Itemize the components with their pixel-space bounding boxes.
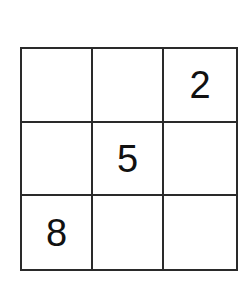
grid-cell-r2-c1[interactable] [22,123,93,196]
cell-value: 2 [189,66,210,104]
grid-cell-r3-c1[interactable]: 8 [22,196,93,269]
cell-value: 5 [117,140,138,178]
grid-cell-r1-c1[interactable] [22,49,93,123]
number-grid: 2 5 8 [20,47,238,271]
grid-cell-r2-c2[interactable]: 5 [93,123,164,196]
cell-value: 8 [46,214,67,252]
grid-cell-r2-c3[interactable] [164,123,236,196]
grid-cell-r3-c3[interactable] [164,196,236,269]
grid-cell-r1-c3[interactable]: 2 [164,49,236,123]
grid-cell-r3-c2[interactable] [93,196,164,269]
grid-cell-r1-c2[interactable] [93,49,164,123]
